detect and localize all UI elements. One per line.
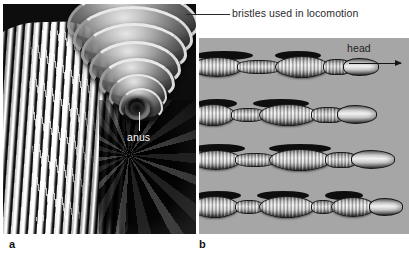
panel-b-caption: b	[199, 238, 206, 250]
worm-stage-4	[199, 192, 409, 222]
worm-stage-3	[199, 145, 409, 175]
direction-arrow-icon	[349, 63, 401, 64]
anus-opening	[125, 98, 150, 120]
panel-b-locomotion-diagram	[199, 38, 409, 234]
anus-leader-line	[139, 112, 140, 131]
worm-stage-1	[199, 52, 409, 82]
bristles-label: bristles used in locomotion	[232, 7, 358, 19]
anus-label: anus	[127, 131, 150, 143]
worm-stage-2	[199, 100, 409, 130]
panel-a-caption: a	[9, 238, 15, 250]
figure-container: bristles used in locomotion anus	[0, 0, 409, 259]
head-label: head	[347, 42, 371, 54]
panel-a-micrograph	[3, 4, 196, 234]
bristles-leader-line	[186, 14, 230, 15]
